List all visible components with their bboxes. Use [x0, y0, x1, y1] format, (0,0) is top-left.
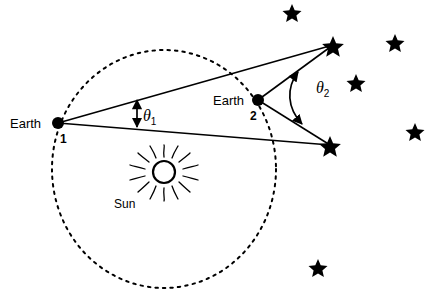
background-star-field [283, 4, 425, 277]
background-star [283, 4, 302, 22]
theta-1-symbol: θ [143, 107, 151, 124]
sun-disc [153, 161, 175, 183]
earth-1-label: Earth [10, 117, 41, 130]
background-star [347, 74, 366, 92]
theta-1-label: θ1 [143, 108, 156, 127]
earth-2-label: Earth [213, 94, 244, 107]
theta-2-subscript: 2 [324, 88, 330, 99]
star-upper-target [322, 36, 344, 57]
sun-label: Sun [114, 198, 135, 210]
theta-2-symbol: θ [316, 79, 324, 96]
background-star [406, 123, 425, 141]
background-star [309, 259, 328, 277]
star-right-target [319, 136, 341, 157]
theta-2-label: θ2 [316, 80, 329, 99]
sightline-earth2-right-star [258, 100, 330, 145]
theta-2-marker [290, 72, 302, 124]
background-star [386, 34, 405, 52]
earth-1-dot [52, 117, 64, 129]
theta-1-subscript: 1 [151, 116, 157, 127]
earth-2-dot [252, 94, 264, 106]
earth-2-index-label: 2 [250, 110, 257, 122]
parallax-diagram: Earth 1 Earth 2 Sun θ1 θ2 [0, 0, 438, 306]
earth-1-index-label: 1 [60, 133, 67, 145]
sightline-earth1-right-star [58, 123, 330, 145]
diagram-canvas [0, 0, 438, 306]
